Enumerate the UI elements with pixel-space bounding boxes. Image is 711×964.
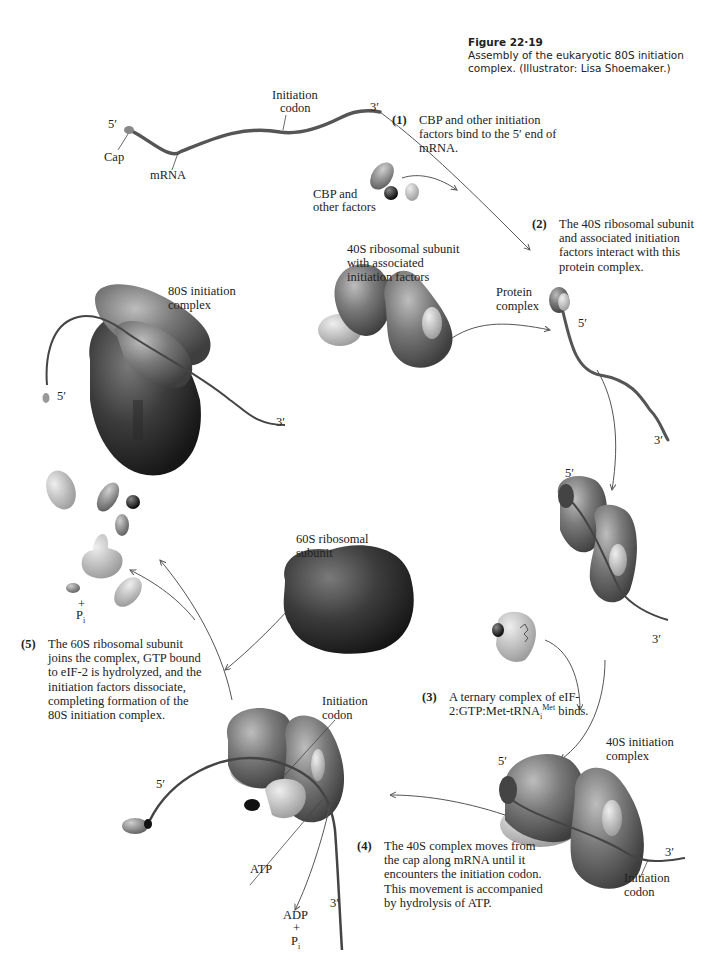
80s-initiation-complex <box>43 284 286 475</box>
label-cap: Cap <box>104 150 124 164</box>
label-5prime-80s: 5′ <box>57 389 66 403</box>
label-80s-2: complex <box>168 298 211 312</box>
label-protein-complex-1: Protein <box>496 285 532 299</box>
label-pi-bottom: Pi <box>291 934 300 948</box>
40s-scanning-complex <box>122 708 344 950</box>
diagram-artwork <box>0 0 711 964</box>
label-cbp-2: other factors <box>313 200 376 214</box>
step-2: (2) The 40S ribosomal subunit and associ… <box>532 217 707 274</box>
label-5prime-right: 5′ <box>565 466 574 480</box>
mrna-strand-top <box>118 111 380 170</box>
step-5: (5) The 60S ribosomal subunit joins the … <box>21 637 206 722</box>
label-initiation-codon-bl-2: codon <box>322 708 353 722</box>
figure-canvas: Figure 22·19 Assembly of the eukaryotic … <box>0 0 711 964</box>
ribosome-40s-on-mrna <box>558 476 668 620</box>
label-60s-2: subunit <box>296 546 333 560</box>
label-mrna: mRNA <box>150 168 186 182</box>
label-initiation-codon-br-2: codon <box>624 885 655 899</box>
label-40s-2: with associated <box>347 256 424 270</box>
label-plus-bottom: + <box>293 921 300 935</box>
label-5prime-bl: 5′ <box>156 777 165 791</box>
label-cbp-1: CBP and <box>313 187 357 201</box>
dissociated-factors <box>41 466 147 612</box>
step-3: (3) A ternary complex of eIF-2:GTP:Met-t… <box>422 690 622 718</box>
label-60s-1: 60S ribosomal <box>296 532 369 546</box>
label-3prime-step2: 3′ <box>654 433 663 447</box>
label-5prime-top: 5′ <box>108 117 117 131</box>
label-initiation-codon-bl-1: Initiation <box>322 694 368 708</box>
label-40s-init-2: complex <box>606 749 649 763</box>
label-80s-1: 80S initiation <box>168 284 236 298</box>
figure-caption-text: Assembly of the eukaryotic 80S initiatio… <box>468 49 684 74</box>
label-3prime-40s-init: 3′ <box>665 845 674 859</box>
figure-caption: Figure 22·19 Assembly of the eukaryotic … <box>468 36 708 75</box>
label-40s-init-1: 40S initiation <box>606 735 674 749</box>
label-3prime-top: 3′ <box>370 100 379 114</box>
label-initiation-codon-top-1: Initiation <box>272 88 318 102</box>
ternary-complex <box>492 612 536 662</box>
ribosome-60s-subunit <box>284 545 414 654</box>
label-5prime-step2: 5′ <box>578 316 587 330</box>
label-5prime-40s-init: 5′ <box>498 754 507 768</box>
label-40s-1: 40S ribosomal subunit <box>347 242 460 256</box>
label-3prime-80s: 3′ <box>276 415 285 429</box>
step-1: (1) CBP and other initiation factors bin… <box>392 113 562 156</box>
protein-complex-on-mrna <box>549 287 668 440</box>
label-initiation-codon-top-2: codon <box>280 101 311 115</box>
step-4: (4) The 40S complex moves from the cap a… <box>357 839 547 910</box>
label-3prime-bl: 3′ <box>330 896 339 910</box>
label-3prime-right: 3′ <box>652 632 661 646</box>
label-atp: ATP <box>250 862 272 876</box>
label-pi-left: Pi <box>76 608 85 622</box>
label-protein-complex-2: complex <box>496 299 539 313</box>
figure-number: Figure 22·19 <box>468 36 708 49</box>
cbp-factors <box>365 158 419 201</box>
label-40s-3: initiation factors <box>347 270 429 284</box>
label-adp: ADP <box>283 908 308 922</box>
label-initiation-codon-br-1: Initiation <box>624 871 670 885</box>
